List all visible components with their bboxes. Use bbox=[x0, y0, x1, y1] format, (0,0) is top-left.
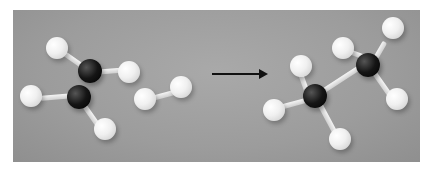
carbon-atom bbox=[67, 85, 91, 109]
hydrogen-atom bbox=[263, 99, 285, 121]
hydrogen-atom bbox=[329, 128, 351, 150]
carbon-atom bbox=[78, 59, 102, 83]
hydrogen-atom bbox=[20, 85, 42, 107]
hydrogen-atom bbox=[332, 37, 354, 59]
hydrogen-atom bbox=[46, 37, 68, 59]
hydrogen-atom bbox=[94, 118, 116, 140]
hydrogen-atom bbox=[134, 88, 156, 110]
reaction-arrow bbox=[212, 73, 262, 75]
hydrogen-atom bbox=[290, 55, 312, 77]
hydrogen-atom bbox=[118, 61, 140, 83]
carbon-atom bbox=[303, 84, 327, 108]
hydrogen-atom bbox=[170, 76, 192, 98]
hydrogen-atom bbox=[382, 17, 404, 39]
hydrogen-atom bbox=[386, 88, 408, 110]
arrow-head-icon bbox=[259, 69, 268, 79]
carbon-atom bbox=[356, 53, 380, 77]
